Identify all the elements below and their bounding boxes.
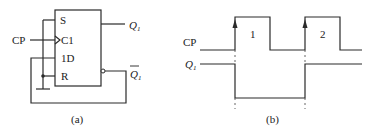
pin-r-label: R	[61, 70, 69, 82]
junction-dot	[41, 74, 45, 78]
inversion-bubble-icon	[101, 69, 105, 73]
pin-s-label: S	[60, 14, 66, 26]
pin-1d-label: 1D	[61, 52, 75, 64]
cp-input-label: CP	[12, 34, 25, 46]
cp-signal-label: CP	[183, 36, 196, 48]
cp-waveform	[200, 17, 362, 50]
q-waveform	[200, 64, 362, 98]
rising-edge-arrow-icon	[233, 19, 238, 28]
rising-edge-arrow-icon	[303, 19, 308, 28]
pulse-1-label: 1	[250, 28, 256, 40]
clock-triangle-icon	[55, 36, 60, 44]
feedback-wire	[31, 58, 126, 103]
timing-diagram: CP Q1 1 2 (b)	[183, 17, 362, 126]
pulse-2-label: 2	[320, 28, 326, 40]
caption-b: (b)	[266, 113, 279, 126]
caption-a: (a)	[71, 113, 84, 126]
pin-c1-label: C1	[61, 34, 74, 46]
q-output-label: Q1	[129, 19, 140, 33]
qbar-output-label: Q1	[130, 68, 141, 82]
flip-flop-circuit: S C1 1D R CP Q1 Q1 (a)	[12, 10, 141, 126]
circuit-figure: S C1 1D R CP Q1 Q1 (a) CP Q1 1 2	[0, 0, 378, 135]
q-signal-label: Q1	[185, 58, 196, 72]
